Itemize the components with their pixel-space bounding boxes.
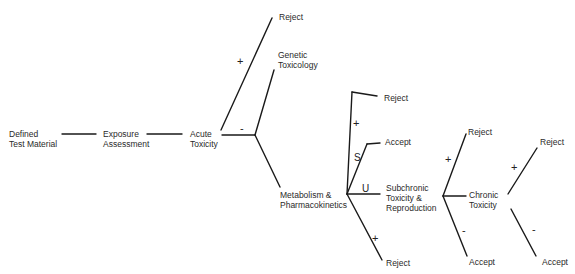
edge-label-acute-plus: + [237, 56, 243, 67]
node-defined-test-material: Defined Test Material [9, 129, 57, 149]
node-accept-2: Accept [469, 257, 495, 267]
edge-label-chronic-plus: + [511, 162, 517, 173]
node-chronic-toxicity: Chronic Toxicity [469, 190, 498, 210]
node-reject-1: Reject [279, 12, 303, 22]
edge-meta-reject-top-h [352, 92, 377, 96]
edge-label-meta-plus-top: + [353, 118, 359, 129]
edge-label-meta-s: S [354, 152, 361, 163]
edge-label-acute-minus: - [240, 123, 244, 134]
edge-label-sub-minus: - [462, 225, 466, 236]
node-exposure-assessment: Exposure Assessment [103, 129, 149, 149]
edge-meta-reject-bottom [347, 194, 382, 260]
node-genetic-toxicology: Genetic Toxicology [278, 50, 318, 70]
edge-meta-accept-h [367, 143, 380, 144]
node-accept-3: Accept [542, 257, 568, 267]
edge-sub-reject [443, 134, 466, 196]
node-metabolism-pharmacokinetics: Metabolism & Pharmacokinetics [280, 190, 347, 210]
edge-label-chronic-minus: - [532, 224, 536, 235]
edge-acute-reject [221, 18, 272, 130]
node-reject-5: Reject [540, 137, 564, 147]
node-reject-2: Reject [384, 93, 408, 103]
edge-junction-genetic [255, 70, 274, 135]
edge-label-sub-plus: + [445, 154, 451, 165]
edge-label-meta-u: U [362, 183, 369, 194]
edge-junction-metabolism [255, 135, 280, 187]
node-reject-4: Reject [468, 127, 492, 137]
node-accept-1: Accept [385, 137, 411, 147]
node-acute-toxicity: Acute Toxicity [190, 129, 218, 149]
edge-meta-reject-top [347, 92, 352, 194]
node-reject-3: Reject [386, 258, 410, 268]
node-subchronic-toxicity-reproduction: Subchronic Toxicity & Reproduction [386, 183, 437, 213]
edge-label-meta-plus-bottom: + [372, 233, 378, 244]
diagram-lines [0, 0, 575, 274]
